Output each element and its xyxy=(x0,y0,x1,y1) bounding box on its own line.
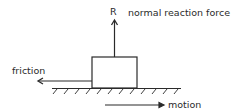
friction-arrow-icon xyxy=(38,78,92,84)
friction-label: friction xyxy=(12,66,45,76)
normal-reaction-label: normal reaction force xyxy=(128,8,230,18)
motion-arrow-icon xyxy=(105,103,164,108)
motion-label: motion xyxy=(168,100,201,110)
ground-surface xyxy=(52,89,181,95)
reaction-symbol-label: R xyxy=(110,7,117,17)
force-diagram: R normal reaction force friction motion xyxy=(0,0,242,111)
block xyxy=(92,57,137,88)
normal-reaction-arrow-icon xyxy=(112,20,118,57)
